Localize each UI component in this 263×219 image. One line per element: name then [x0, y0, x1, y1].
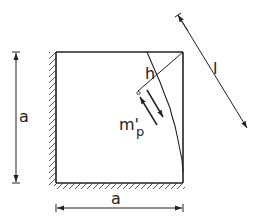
- h-label: h: [145, 64, 155, 83]
- bottom-dimension-label: a: [111, 189, 121, 208]
- l-label: l: [213, 59, 217, 78]
- length-dimension: [175, 13, 247, 128]
- moment-subscript: p: [136, 124, 144, 139]
- right-angle-marker: [137, 91, 140, 94]
- left-dimension-label: a: [19, 107, 29, 126]
- length-start-arrowhead: [178, 15, 188, 31]
- diagram-canvas: a a h l m' p: [0, 0, 263, 219]
- left-support-hatching: [49, 52, 56, 185]
